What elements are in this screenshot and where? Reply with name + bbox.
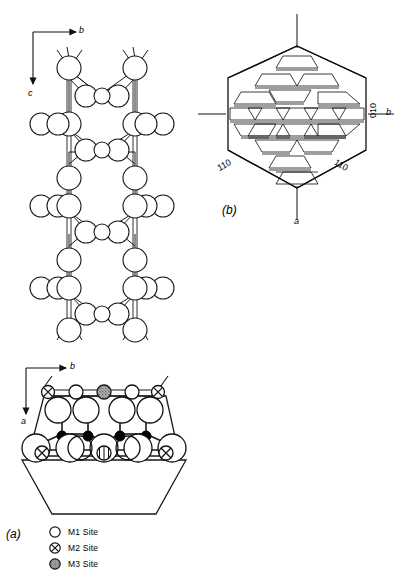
axis-label-b-top: b (79, 25, 84, 35)
open-circle-icon (48, 525, 62, 539)
m2-site (42, 386, 55, 399)
m2-site (159, 446, 173, 460)
axis-label-a-bottom: a (21, 416, 26, 426)
face-label-010: 010 (368, 103, 378, 118)
m1-upper-band (45, 397, 163, 423)
legend-label-m1: M1 Site (68, 527, 98, 537)
cross-section-svg (0, 352, 215, 522)
legend-item-m1: M1 Site (48, 524, 98, 540)
m3-site (97, 385, 111, 399)
crystal-habit-svg (196, 8, 399, 230)
stippled-circle-icon (48, 557, 62, 571)
ring-unit-2 (40, 150, 164, 234)
m1-site (125, 385, 139, 399)
legend-label-m3: M3 Site (68, 559, 98, 569)
tie-bonds (62, 420, 146, 434)
habit-axis-label-b: b (386, 107, 391, 117)
legend-label-m2: M2 Site (68, 543, 98, 553)
m1-site (69, 385, 83, 399)
chain-structure-svg (0, 0, 210, 350)
habit-axis-label-a: a (294, 216, 299, 226)
legend: M1 Site M2 Site M3 Site (48, 524, 98, 572)
legend-item-m3: M3 Site (48, 556, 98, 572)
panel-a-chain-structure: b c (0, 0, 210, 350)
m3-site (97, 446, 111, 460)
axis-label-b-bottom: b (70, 361, 75, 371)
panel-b-label: (b) (222, 203, 237, 217)
legend-item-m2: M2 Site (48, 540, 98, 556)
panel-b-crystal-habit: 110 110 010 b a (196, 8, 399, 230)
axis-label-c-top: c (28, 88, 33, 98)
m2-site (35, 446, 49, 460)
crossed-circle-icon (48, 541, 62, 555)
panel-a-cross-section: b a (0, 352, 215, 522)
panel-a-label: (a) (6, 527, 21, 541)
atom-circles (30, 56, 174, 342)
ring-chain (30, 47, 174, 342)
lower-slab-outline (22, 460, 186, 514)
m2-site (152, 386, 165, 399)
